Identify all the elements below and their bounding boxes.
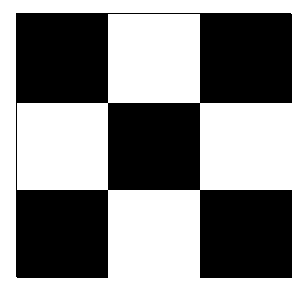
cell-r1-c2-white [108, 14, 200, 103]
cell-r1-c3-black [200, 14, 292, 103]
checkerboard-grid [16, 13, 291, 277]
cell-r2-c1-white [17, 103, 108, 190]
cell-r3-c2-white [108, 190, 200, 278]
cell-r2-c3-white [200, 103, 292, 190]
cell-r3-c1-black [17, 190, 108, 278]
cell-r3-c3-black [200, 190, 292, 278]
cell-r1-c1-black [17, 14, 108, 103]
cell-r2-c2-black [108, 103, 200, 190]
